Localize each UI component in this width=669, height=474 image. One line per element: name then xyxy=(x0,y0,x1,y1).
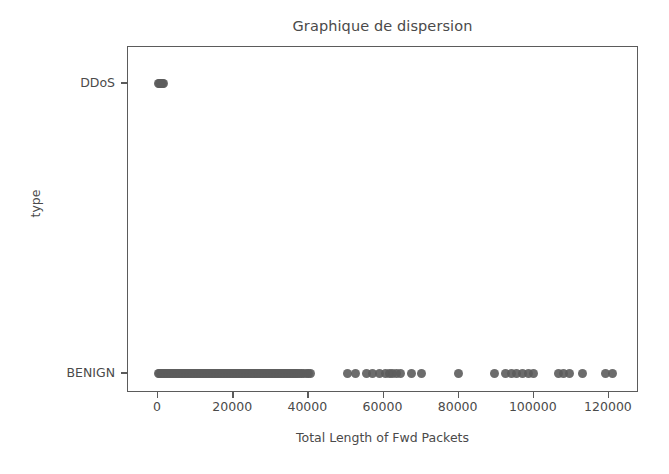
x-tick-label: 100000 xyxy=(509,399,557,414)
y-tick-mark xyxy=(121,372,127,373)
x-tick-label: 40000 xyxy=(287,399,327,414)
data-point xyxy=(578,369,587,378)
y-tick-label: BENIGN xyxy=(0,365,115,380)
x-tick-mark xyxy=(383,392,384,398)
data-point xyxy=(396,369,405,378)
y-tick-label: DDoS xyxy=(0,75,115,90)
x-tick-mark xyxy=(458,392,459,398)
y-tick-mark xyxy=(121,82,127,83)
x-tick-label: 120000 xyxy=(584,399,632,414)
data-point xyxy=(529,369,538,378)
data-point xyxy=(159,79,168,88)
x-tick-label: 60000 xyxy=(363,399,403,414)
data-point xyxy=(454,369,463,378)
y-axis-label: type xyxy=(28,159,43,249)
page-title: Graphique de dispersion xyxy=(127,18,638,34)
x-tick-mark xyxy=(307,392,308,398)
x-axis-label: Total Length of Fwd Packets xyxy=(127,430,638,445)
x-tick-mark xyxy=(608,392,609,398)
data-point xyxy=(608,369,617,378)
plot-area xyxy=(127,46,638,392)
data-point xyxy=(565,369,574,378)
data-point xyxy=(417,369,426,378)
matplotlib-figure: Graphique de dispersion 0200004000060000… xyxy=(0,0,669,474)
data-point xyxy=(306,369,315,378)
x-tick-mark xyxy=(232,392,233,398)
scatter-canvas xyxy=(128,47,637,391)
x-tick-label: 80000 xyxy=(438,399,478,414)
x-tick-mark xyxy=(157,392,158,398)
x-tick-label: 20000 xyxy=(212,399,252,414)
x-tick-mark xyxy=(533,392,534,398)
data-point xyxy=(407,369,416,378)
data-point xyxy=(351,369,360,378)
data-point xyxy=(490,369,499,378)
x-tick-label: 0 xyxy=(153,399,161,414)
